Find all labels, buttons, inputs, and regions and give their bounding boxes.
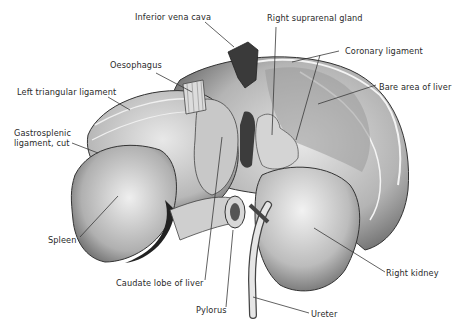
label-spleen: Spleen (48, 235, 77, 245)
label-ureter: Ureter (311, 309, 337, 319)
spleen (71, 145, 176, 262)
oesophagus (183, 80, 206, 114)
label-inferior-vena-cava: Inferior vena cava (135, 12, 211, 22)
label-pylorus: Pylorus (196, 305, 227, 315)
label-gastrosplenic-line2: ligament, cut (14, 138, 70, 148)
label-left-triangular-ligament: Left triangular ligament (17, 87, 116, 97)
label-right-suprarenal-gland: Right suprarenal gland (267, 13, 363, 23)
label-gastrosplenic-line1: Gastrosplenic (14, 128, 71, 138)
label-caudate-lobe: Caudate lobe of liver (116, 278, 204, 288)
label-oesophagus: Oesophagus (110, 60, 162, 70)
anatomy-figure: Inferior vena cava Right suprarenal glan… (0, 0, 454, 332)
right-kidney (255, 167, 360, 291)
pylorus-lumen (230, 203, 240, 221)
label-right-kidney: Right kidney (386, 268, 439, 278)
label-coronary-ligament: Coronary ligament (345, 46, 423, 56)
label-bare-area-of-liver: Bare area of liver (379, 82, 451, 92)
